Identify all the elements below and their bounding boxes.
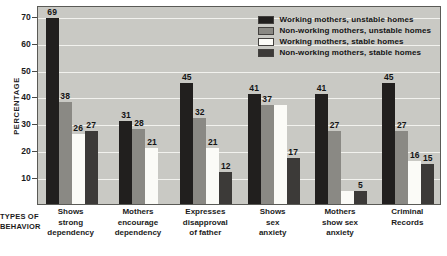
- bar[interactable]: [328, 131, 341, 204]
- legend-swatch-icon: [258, 16, 274, 24]
- bar-slot: 32: [193, 7, 206, 204]
- y-tick-label: 40: [21, 92, 31, 102]
- bar[interactable]: [193, 118, 206, 204]
- bar-group: 312821: [105, 7, 172, 204]
- bar-value-label: 41: [249, 83, 259, 93]
- bar-slot: 21: [145, 7, 158, 204]
- bar[interactable]: [72, 134, 85, 204]
- bar-value-label: 41: [317, 83, 327, 93]
- x-category-label-line: dependency: [37, 228, 104, 239]
- bar[interactable]: [421, 164, 434, 204]
- bar[interactable]: [46, 18, 59, 204]
- x-category-label-line: Criminal: [374, 207, 441, 218]
- x-category-label: Showsstrongdependency: [37, 207, 104, 239]
- bar-value-label: 27: [330, 120, 340, 130]
- y-axis: PERCENTAGE 10203040506070: [0, 6, 37, 205]
- y-tick-label: 20: [21, 146, 31, 156]
- bar-value-label: 31: [121, 110, 131, 120]
- bar-value-label: 12: [221, 161, 231, 171]
- x-category-label-line: show sex: [306, 218, 373, 229]
- legend-item[interactable]: Non-working mothers, unstable homes: [258, 26, 431, 35]
- bar-value-label: 45: [182, 72, 192, 82]
- bar[interactable]: [180, 83, 193, 204]
- x-axis-title-line-2: BEHAVIOR: [0, 222, 40, 232]
- bar-group: 69382627: [38, 7, 105, 204]
- bar[interactable]: [119, 121, 132, 204]
- bar[interactable]: [59, 102, 72, 204]
- bar[interactable]: [408, 161, 421, 204]
- bar-slot: 21: [206, 7, 219, 204]
- bar[interactable]: [85, 131, 98, 204]
- bar-value-label: 26: [73, 123, 83, 133]
- bar[interactable]: [261, 105, 274, 205]
- bar[interactable]: [274, 105, 287, 205]
- x-category-label-line: Shows: [239, 207, 306, 218]
- bar-value-label: 21: [208, 137, 218, 147]
- x-axis-title: TYPES OF BEHAVIOR: [0, 212, 40, 232]
- x-category-label: Mothersencouragedependency: [104, 207, 171, 239]
- bar[interactable]: [145, 148, 158, 204]
- bar[interactable]: [382, 83, 395, 204]
- plot-area: 6938262731282145322112413717412754527161…: [37, 6, 441, 205]
- x-category-label-line: anxiety: [239, 228, 306, 239]
- bar-value-label: 21: [147, 137, 157, 147]
- bar[interactable]: [341, 191, 354, 204]
- x-category-label-line: Mothers: [306, 207, 373, 218]
- legend-swatch-icon: [258, 27, 274, 35]
- legend-item[interactable]: Working mothers, unstable homes: [258, 15, 431, 24]
- bar[interactable]: [248, 94, 261, 204]
- x-category-label-line: dependency: [104, 228, 171, 239]
- bar-value-label: 28: [134, 118, 144, 128]
- x-category-label-line: disapproval: [172, 218, 239, 229]
- bar-slot: 38: [59, 7, 72, 204]
- bar-value-label: 27: [397, 120, 407, 130]
- bar-slot: 26: [72, 7, 85, 204]
- bar[interactable]: [219, 172, 232, 204]
- y-tick-label: 60: [21, 39, 31, 49]
- bar-slot: 45: [180, 7, 193, 204]
- bar-slot: 12: [219, 7, 232, 204]
- bar-value-label: 38: [60, 91, 70, 101]
- legend-swatch-icon: [258, 49, 274, 57]
- y-tick-label: 70: [21, 12, 31, 22]
- legend-item-label: Non-working mothers, stable homes: [279, 48, 421, 57]
- legend-item[interactable]: Non-working mothers, stable homes: [258, 48, 431, 57]
- bar-value-label: 17: [288, 147, 298, 157]
- legend-swatch-icon: [258, 38, 274, 46]
- x-category-label-line: Shows: [37, 207, 104, 218]
- bar[interactable]: [206, 148, 219, 204]
- x-category-label-line: Expresses: [172, 207, 239, 218]
- bar-value-label: 27: [86, 120, 96, 130]
- x-axis: ShowsstrongdependencyMothersencouragedep…: [37, 207, 441, 254]
- bar-value-label: 5: [358, 180, 363, 190]
- bar-value-label: 32: [195, 107, 205, 117]
- x-category-label-line: sex: [239, 218, 306, 229]
- x-axis-title-line-1: TYPES OF: [0, 212, 40, 222]
- legend: Working mothers, unstable homesNon-worki…: [255, 12, 435, 60]
- x-category-label: CriminalRecords: [374, 207, 441, 228]
- x-category-label-line: encourage: [104, 218, 171, 229]
- bar-value-label: 37: [262, 94, 272, 104]
- legend-item[interactable]: Working mothers, stable homes: [258, 37, 431, 46]
- bar-group: 45322112: [173, 7, 240, 204]
- y-tick-label: 10: [21, 173, 31, 183]
- y-tick-label: 30: [21, 119, 31, 129]
- bar-slot: 31: [119, 7, 132, 204]
- x-category-label-line: strong: [37, 218, 104, 229]
- x-category-label-line: Mothers: [104, 207, 171, 218]
- x-category-label-line: of father: [172, 228, 239, 239]
- bar[interactable]: [315, 94, 328, 204]
- x-category-label: Showssexanxiety: [239, 207, 306, 239]
- x-category-label-line: anxiety: [306, 228, 373, 239]
- bar-chart: PERCENTAGE 10203040506070 69382627312821…: [0, 0, 447, 256]
- bar-value-label: 15: [423, 153, 433, 163]
- x-category-label: Mothersshow sexanxiety: [306, 207, 373, 239]
- bar-slot: 27: [85, 7, 98, 204]
- bar[interactable]: [354, 191, 367, 204]
- bar-value-label: 45: [384, 72, 394, 82]
- bar[interactable]: [132, 129, 145, 204]
- bar-value-label: 16: [410, 150, 420, 160]
- legend-item-label: Non-working mothers, unstable homes: [279, 26, 431, 35]
- bar[interactable]: [395, 131, 408, 204]
- bar[interactable]: [287, 158, 300, 204]
